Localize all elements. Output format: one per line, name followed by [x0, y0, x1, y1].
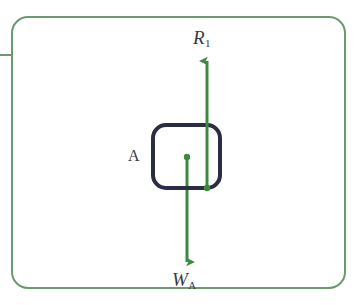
weight-label-base: W	[172, 269, 188, 290]
block-A-label: A	[128, 148, 140, 164]
reaction-label-subscript: 1	[205, 37, 211, 49]
block-label-text: A	[128, 147, 140, 164]
normal-reaction-vector-origin-dot	[204, 185, 210, 191]
diagram-canvas	[0, 0, 358, 305]
normal-reaction-vector-label: R1	[193, 28, 211, 49]
rounded-frame	[12, 17, 345, 288]
reaction-label-base: R	[193, 27, 205, 48]
free-body-diagram-figure: R1 WA A	[0, 0, 358, 305]
weight-label-subscript: A	[188, 279, 196, 291]
weight-vector-label: WA	[172, 270, 196, 291]
weight-vector-origin-dot	[184, 154, 190, 160]
